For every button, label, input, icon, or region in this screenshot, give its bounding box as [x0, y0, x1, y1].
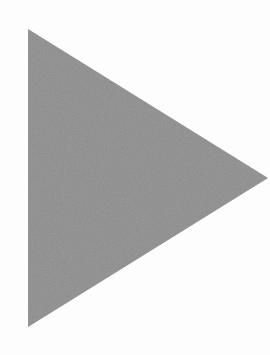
- canvas: [0, 0, 270, 355]
- triangle-shape: [28, 29, 268, 327]
- play-triangle-icon: [0, 0, 270, 355]
